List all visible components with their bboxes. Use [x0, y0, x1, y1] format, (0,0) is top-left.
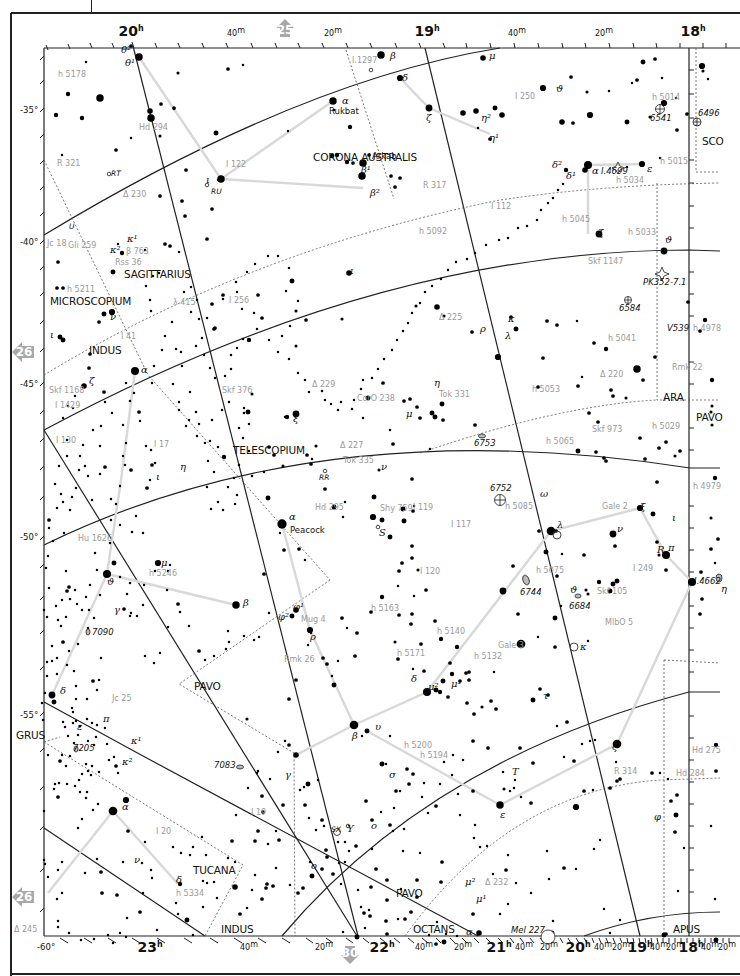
star-marker — [102, 312, 107, 317]
greek-letter-label: R — [656, 544, 665, 555]
double-star-label: h 5246 — [149, 569, 177, 578]
star-marker — [80, 116, 84, 120]
star-marker — [243, 407, 245, 409]
page-link-30-down-button[interactable]: 30 — [341, 946, 359, 964]
greek-letter-label: ε — [500, 809, 505, 820]
star-marker — [75, 487, 77, 489]
star-marker — [119, 932, 121, 934]
star-marker — [235, 814, 237, 816]
star-marker — [713, 476, 717, 480]
page-link-26-left-button[interactable]: 26 — [12, 342, 34, 362]
star-marker — [573, 804, 579, 810]
deep-sky-object-label: 6496 — [698, 108, 720, 118]
star-marker — [224, 375, 226, 377]
star-marker — [212, 327, 216, 331]
star-marker — [236, 494, 238, 496]
greek-letter-label: ω — [540, 488, 548, 499]
double-star-label: Jc 25 — [111, 694, 131, 703]
star-marker — [230, 839, 234, 843]
star-marker — [41, 702, 43, 704]
star-marker — [409, 910, 413, 914]
page-link-26-left-button[interactable]: 26 — [12, 887, 34, 907]
greek-letter-label: μ² — [428, 681, 439, 692]
star-marker — [112, 561, 117, 566]
star-marker — [396, 339, 398, 341]
star-marker — [381, 381, 385, 385]
star-marker — [71, 496, 73, 498]
star-marker — [91, 722, 93, 724]
double-star-label: Rmk 26 — [284, 655, 315, 664]
star-marker — [661, 248, 668, 255]
star-marker — [179, 611, 181, 613]
constellation-label: TELESCOPIUM — [232, 444, 305, 456]
star-marker — [699, 63, 705, 69]
double-star-label: h 5065 — [546, 437, 574, 446]
greek-letter-label: μ¹ — [476, 893, 487, 904]
star-marker — [119, 485, 121, 487]
star-marker — [110, 519, 112, 521]
star-marker — [126, 917, 128, 919]
star-marker — [85, 61, 87, 63]
star-marker — [45, 567, 47, 569]
star-marker — [221, 293, 225, 297]
star-marker — [389, 174, 393, 178]
star-marker — [44, 863, 46, 865]
star-marker — [388, 823, 392, 827]
star-marker — [555, 323, 559, 327]
star-marker — [513, 787, 515, 789]
ra-label: 40m — [240, 940, 258, 952]
double-star-label: I 17 — [154, 440, 169, 449]
star-marker — [227, 857, 229, 859]
figure-sgr-1 — [139, 57, 363, 188]
star-marker — [393, 807, 395, 809]
star-marker — [439, 880, 443, 884]
star-marker — [403, 917, 407, 921]
star-marker — [699, 570, 703, 574]
star-marker — [98, 679, 100, 681]
double-star-label: Δ 245 — [14, 925, 37, 934]
star-marker — [138, 910, 142, 914]
star-marker — [84, 872, 86, 874]
star-marker — [362, 911, 366, 915]
star-marker — [178, 409, 180, 411]
star-marker — [494, 707, 498, 711]
star-marker — [122, 455, 124, 457]
ra-labels-top: 20h40m20m19h40m20m18h — [118, 23, 705, 39]
star-marker — [131, 367, 139, 375]
star-marker — [201, 337, 203, 339]
star-marker — [546, 850, 548, 852]
star-marker — [210, 207, 214, 211]
star-marker — [471, 789, 475, 793]
star-marker — [264, 886, 268, 890]
star-marker — [429, 448, 431, 450]
star-marker — [96, 569, 98, 571]
star-marker — [117, 772, 119, 774]
star-marker — [42, 719, 44, 721]
star-marker — [287, 130, 289, 132]
double-star-label: h 5053 — [532, 385, 560, 394]
star-marker — [703, 318, 707, 322]
ra-label: 22h — [369, 939, 394, 955]
star-marker — [311, 458, 313, 460]
star-marker — [340, 616, 344, 620]
star-marker — [351, 408, 353, 410]
greek-letter-label: η — [434, 377, 440, 388]
star-marker — [377, 51, 384, 58]
greek-letter-label: Υ — [347, 823, 355, 834]
star-marker — [66, 92, 70, 96]
star-marker — [344, 861, 346, 863]
star-marker — [332, 683, 337, 688]
star-marker — [107, 934, 109, 936]
constellation-label: INDUS — [221, 923, 254, 935]
star-marker — [698, 612, 702, 616]
page-number: 26 — [16, 890, 33, 904]
star-marker — [678, 449, 682, 453]
star-marker — [58, 782, 60, 784]
greek-letter-label: υ — [375, 721, 381, 732]
star-marker — [275, 830, 277, 832]
greek-letter-label: α — [592, 165, 599, 176]
page-link-25-up-button[interactable]: 25 — [276, 19, 294, 37]
star-marker — [371, 377, 373, 379]
star-marker — [206, 486, 208, 488]
star-marker — [181, 365, 183, 367]
